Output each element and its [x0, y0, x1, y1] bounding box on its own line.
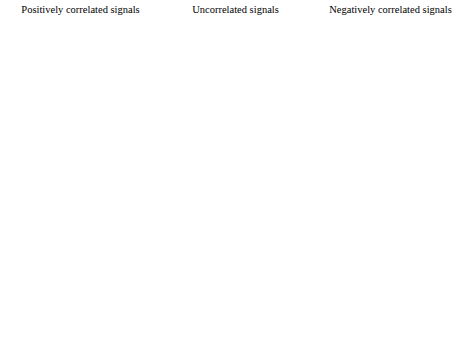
column-title-negative: Negatively correlated signals [329, 4, 451, 15]
column-title-uncorrelated: Uncorrelated signals [192, 4, 279, 15]
column-title-positive: Positively correlated signals [21, 4, 139, 15]
correlation-figure: Positively correlated signalsUncorrelate… [0, 0, 471, 339]
